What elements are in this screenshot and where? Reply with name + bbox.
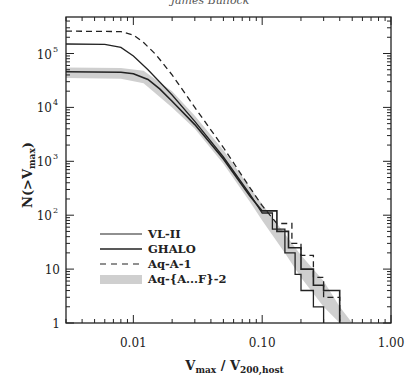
y-tick-label: 10 (37, 101, 52, 115)
y-tick-exponent: 3 (53, 152, 58, 161)
y-tick-label: 10 (45, 263, 60, 277)
y-tick-label: 10 (37, 209, 52, 223)
y-axis-title: N(>Vmax) (20, 142, 37, 208)
y-tick-label: 10 (37, 155, 52, 169)
chart: 0.010.101.00110102103104105Vmax / V200,h… (0, 0, 420, 378)
legend-label: Aq-{A...F}-2 (147, 272, 226, 286)
y-tick-exponent: 2 (53, 206, 58, 215)
legend-label: VL-II (147, 227, 181, 241)
x-axis-title: Vmax / V200,host (184, 358, 284, 376)
legend-item: GHALO (100, 242, 196, 256)
legend-swatch-band (100, 275, 142, 284)
legend-item: VL-II (100, 227, 181, 241)
legend: VL-IIGHALOAq-A-1Aq-{A...F}-2 (100, 227, 226, 286)
x-tick-label: 1.00 (378, 336, 405, 350)
y-tick-label: 1 (52, 317, 60, 331)
legend-label: GHALO (148, 242, 196, 256)
y-tick-exponent: 4 (53, 98, 58, 107)
series-line-ghalo (66, 72, 340, 325)
x-tick-label: 0.01 (120, 336, 147, 350)
legend-item: Aq-{A...F}-2 (100, 272, 226, 286)
x-axis: 0.010.101.00 (66, 17, 404, 350)
x-tick-label: 0.10 (249, 336, 276, 350)
legend-label: Aq-A-1 (147, 257, 191, 271)
legend-item: Aq-A-1 (100, 257, 191, 271)
y-tick-label: 10 (37, 48, 52, 62)
y-tick-exponent: 5 (53, 45, 58, 54)
